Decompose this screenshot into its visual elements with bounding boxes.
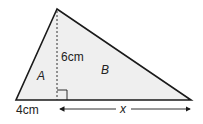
height-label: 6cm [61, 50, 84, 64]
triangle-diagram: 6cm A B 4cm x [0, 0, 203, 124]
base-left-length-label: 4cm [16, 103, 39, 117]
region-b-label: B [101, 63, 109, 77]
x-length-label: x [119, 102, 127, 116]
triangle [16, 9, 191, 100]
region-a-label: A [36, 69, 45, 83]
